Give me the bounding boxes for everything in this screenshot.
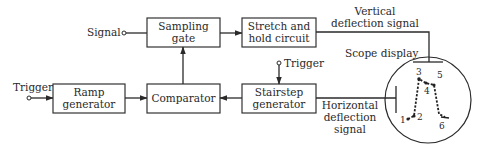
scope-point-6-tail [441, 117, 449, 118]
horizontal-deflection-label-line2: deflection [324, 111, 377, 123]
vertical-deflection-label-line1: Vertical [354, 5, 397, 17]
stairstep-generator-label-line1: Stairstep [255, 86, 304, 98]
scope-point-1-dot [406, 117, 409, 120]
scope-point-4-label: 4 [424, 86, 430, 96]
ramp-generator-label-line2: generator [63, 98, 117, 110]
signal-input-terminal [122, 31, 126, 35]
trigger-stairstep-terminal [277, 61, 281, 65]
scope-trace [408, 79, 445, 119]
sampling-gate-label-line1: Sampling [158, 20, 209, 32]
scope-point-4-dot [424, 81, 427, 84]
scope-point-3-label: 3 [416, 67, 422, 77]
scope-point-1-label: 1 [400, 115, 406, 125]
scope-point-3-dot [417, 77, 421, 81]
horizontal-deflection-label-line1: Horizontal [322, 99, 379, 111]
scope-point-6-label: 6 [439, 121, 445, 131]
signal-input-label: Signal [87, 26, 121, 38]
scope-point-5-dot [432, 83, 435, 86]
sampling-gate-label-line2: gate [172, 32, 195, 44]
scope-point-2-label: 2 [417, 112, 423, 122]
scope-screen [385, 57, 471, 143]
stairstep-generator-label-line2: generator [253, 98, 307, 110]
sampling-oscilloscope-block-diagram: Signal Sampling gate Stretch and hold ci… [0, 0, 486, 148]
comparator-label: Comparator [151, 92, 216, 104]
stretch-hold-label-line1: Stretch and [248, 20, 311, 32]
horizontal-deflection-label-line3: signal [334, 123, 366, 135]
stretch-hold-label-line2: hold circuit [249, 32, 311, 44]
ramp-generator-label-line1: Ramp [73, 86, 104, 98]
scope-point-5-label: 5 [437, 70, 443, 80]
vertical-deflection-label-line2: deflection signal [331, 17, 420, 29]
scope-display-label: Scope display [345, 47, 418, 59]
scope-point-2-dot [412, 114, 415, 117]
trigger-left-label: Trigger [13, 81, 54, 93]
trigger-left-terminal [27, 96, 31, 100]
trigger-stairstep-label: Trigger [284, 57, 325, 69]
